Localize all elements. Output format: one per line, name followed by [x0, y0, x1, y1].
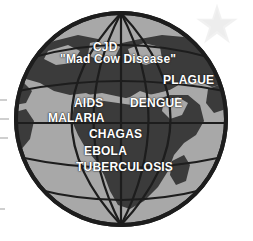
- disease-label-mad-cow: "Mad Cow Disease": [60, 53, 176, 65]
- scan-artifact-mark: [0, 137, 8, 139]
- illustration-canvas: CJD "Mad Cow Disease" PLAGUE AIDS DENGUE…: [0, 0, 253, 241]
- disease-label-malaria: MALARIA: [48, 112, 105, 124]
- disease-label-plague: PLAGUE: [163, 74, 214, 86]
- globe-graphic: [12, 9, 230, 229]
- world-globe: [12, 9, 230, 229]
- scan-artifact-mark: [0, 208, 5, 210]
- disease-label-ebola: EBOLA: [84, 145, 127, 157]
- scan-artifact-mark: [0, 99, 7, 101]
- scan-artifact-mark: [0, 118, 9, 120]
- disease-label-chagas: CHAGAS: [89, 128, 142, 140]
- disease-label-aids: AIDS: [74, 97, 103, 109]
- disease-label-tuberculosis: TUBERCULOSIS: [76, 161, 173, 173]
- disease-label-dengue: DENGUE: [130, 97, 183, 109]
